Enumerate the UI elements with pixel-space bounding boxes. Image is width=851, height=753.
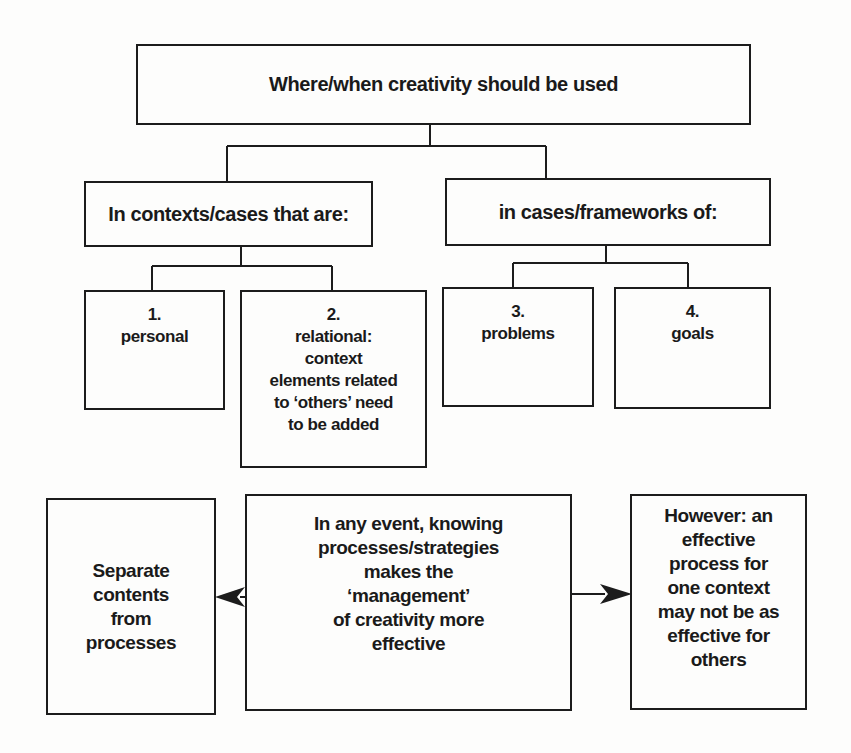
text-line: contents (93, 583, 169, 607)
node-number: 4. (686, 301, 699, 323)
node-problems: 3. problems (442, 287, 594, 407)
node-line: context (305, 348, 363, 370)
bottom-left-separate: Separate contents from processes (46, 498, 216, 715)
node-number: 2. (327, 304, 340, 326)
text-line: makes the (364, 560, 453, 584)
node-number: 1. (148, 304, 161, 326)
root-label: Where/when creativity should be used (269, 73, 618, 96)
node-line: problems (481, 323, 554, 345)
node-number: 3. (511, 301, 524, 323)
bottom-center-knowing: In any event, knowing processes/strategi… (245, 494, 572, 711)
text-line: effective for (667, 624, 770, 648)
root-node: Where/when creativity should be used (136, 44, 751, 125)
text-line: effective (372, 632, 446, 656)
branch-frameworks: in cases/frameworks of: (445, 178, 771, 246)
node-line: to be added (288, 414, 379, 436)
node-line: to ‘others’ need (274, 392, 393, 414)
branch-contexts-label: In contexts/cases that are: (108, 203, 348, 226)
node-personal: 1. personal (84, 290, 225, 410)
node-line: relational: (295, 326, 372, 348)
node-line: personal (121, 326, 189, 348)
text-line: In any event, knowing (314, 512, 503, 536)
text-line: from (111, 607, 152, 631)
text-line: of creativity more (333, 608, 484, 632)
node-line: elements related (270, 370, 398, 392)
text-line: may not be as (658, 600, 780, 624)
text-line: one context (667, 576, 769, 600)
node-relational: 2. relational: context elements related … (240, 290, 427, 468)
text-line: process for (669, 552, 768, 576)
text-line: processes/strategies (318, 536, 499, 560)
branch-contexts: In contexts/cases that are: (84, 181, 373, 247)
text-line: others (691, 648, 747, 672)
branch-frameworks-label: in cases/frameworks of: (499, 201, 718, 224)
text-line: effective (682, 528, 756, 552)
bottom-right-however: However: an effective process for one co… (630, 494, 807, 710)
text-line: processes (86, 631, 176, 655)
text-line: However: an (664, 504, 773, 528)
text-line: Separate (92, 559, 169, 583)
text-line: ‘management’ (347, 584, 470, 608)
node-line: goals (671, 323, 713, 345)
node-goals: 4. goals (614, 287, 771, 409)
